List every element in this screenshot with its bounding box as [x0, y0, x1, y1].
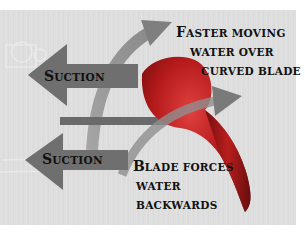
suction-label-bottom-initial: S — [42, 151, 52, 167]
blade-label-line1: BLADE FORCES — [133, 158, 234, 174]
faster-label-rest: ASTER MOVING — [186, 27, 286, 39]
suction-label-top: SUCTION — [44, 68, 105, 84]
blade-label-rest: LADE FORCES — [145, 161, 234, 173]
blade-label-line2: WATER — [136, 180, 181, 192]
suction-label-top-rest: UCTION — [54, 71, 105, 83]
faster-label-initial: F — [176, 24, 186, 40]
suction-label-bottom-rest: UCTION — [52, 154, 103, 166]
suction-label-top-initial: S — [44, 68, 54, 84]
blade-label-initial: B — [133, 158, 145, 174]
faster-label-line2: WATER OVER — [190, 46, 274, 58]
faster-label-line3: CURVED BLADE — [201, 65, 301, 77]
suction-label-bottom: SUCTION — [42, 151, 103, 167]
faster-label-line1: FASTER MOVING — [176, 24, 286, 40]
blade-label-line3: BACKWARDS — [136, 199, 218, 211]
